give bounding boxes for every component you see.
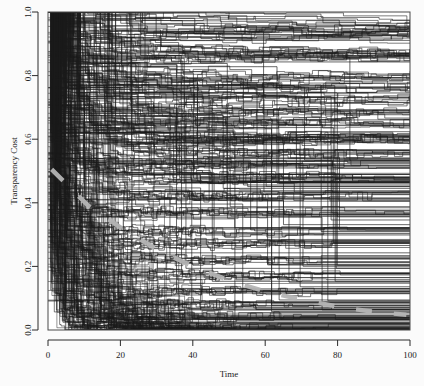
x-axis-tick-label: 80	[333, 350, 343, 360]
chart-figure: 020406080100 0.00.20.40.60.81.0 Time Tra…	[0, 0, 424, 386]
y-axis-tick-label: 0.4	[23, 197, 33, 209]
x-axis-tick-label: 100	[403, 350, 417, 360]
x-axis-tick-label: 60	[261, 350, 271, 360]
x-axis-tick-label: 20	[116, 350, 126, 360]
y-axis-tick-label: 0.0	[23, 324, 33, 336]
y-axis-tick-label: 0.6	[23, 133, 33, 145]
y-axis-title: Transparency Cost	[9, 137, 19, 205]
x-axis-title: Time	[220, 369, 239, 379]
y-axis-tick-label: 0.2	[23, 261, 33, 272]
step-line-chart: 020406080100 0.00.20.40.60.81.0 Time Tra…	[0, 0, 424, 386]
x-axis-tick-label: 40	[188, 350, 198, 360]
y-axis-tick-label: 1.0	[23, 6, 33, 18]
y-axis-tick-label: 0.8	[23, 69, 33, 81]
x-axis-tick-label: 0	[46, 350, 51, 360]
